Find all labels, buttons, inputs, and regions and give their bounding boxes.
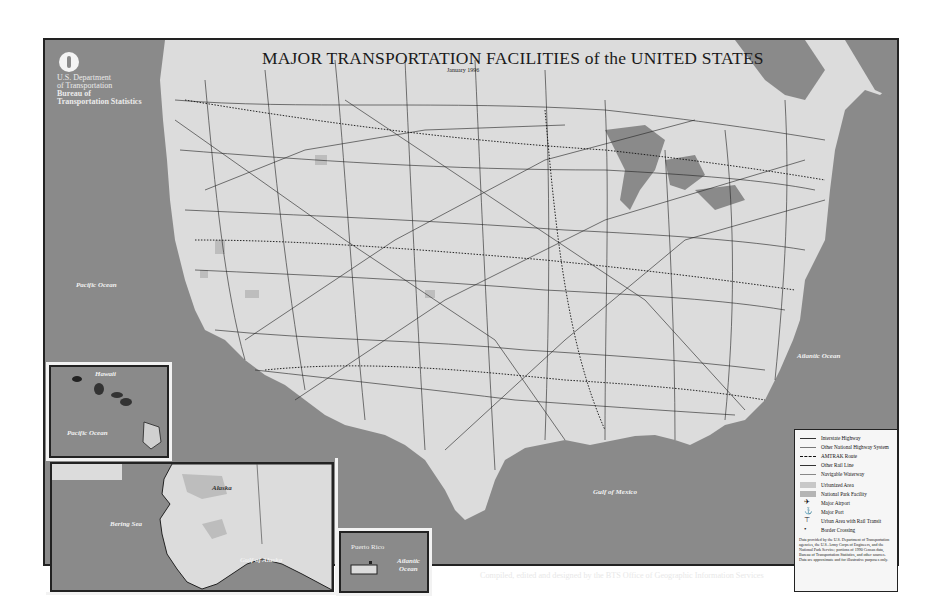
waterway-line-icon <box>799 470 817 478</box>
map-date: January 1996 <box>447 67 479 73</box>
label-hawaii-pacific: Pacific Ocean <box>67 429 108 437</box>
legend-item-interstate: Interstate Highway <box>799 433 893 442</box>
agency-block: U.S. Department of Transportation Bureau… <box>57 74 142 106</box>
label-atlantic-ocean: Atlantic Ocean <box>797 352 840 360</box>
label-gulf-of-alaska: Gulf of Alaska <box>240 556 282 564</box>
legend-label: Urban Area with Rail Transit <box>821 518 881 524</box>
label-alaska: Alaska <box>212 484 232 492</box>
legend-label: Urbanized Area <box>821 482 854 488</box>
legend-label: Major Port <box>821 509 844 515</box>
puerto-rico-inset: Puerto Rico Atlantic Ocean <box>339 531 429 593</box>
credit-line: Compiled, edited and designed by the BTS… <box>480 571 764 580</box>
label-pacific-ocean: Pacific Ocean <box>76 281 117 289</box>
label-puerto-rico: Puerto Rico <box>351 543 384 551</box>
airplane-icon: ✈ <box>799 499 817 507</box>
agency-line4: Transportation Statistics <box>57 98 142 106</box>
legend-label: AMTRAK Route <box>821 453 857 459</box>
amtrak-dashed-line-icon <box>799 452 817 460</box>
legend-item-park: National Park Facility <box>799 489 893 498</box>
legend-item-rail: Other Rail Line <box>799 460 893 469</box>
label-pr-atlantic: Atlantic <box>397 557 420 565</box>
legend-label: Interstate Highway <box>821 435 861 441</box>
legend-item-border: • Border Crossing <box>799 525 893 534</box>
nhs-line-icon <box>799 443 817 451</box>
legend-label: Other National Highway System <box>821 444 889 450</box>
label-bering-sea: Bering Sea <box>110 520 142 528</box>
dot-logo-icon <box>59 52 79 72</box>
rail-transit-icon: ⊤ <box>799 517 817 525</box>
legend-item-amtrak: AMTRAK Route <box>799 451 893 460</box>
legend-source-note: Data provided by the U.S. Department of … <box>799 537 893 562</box>
alaska-inset: Alaska Bering Sea Gulf of Alaska <box>50 462 334 592</box>
legend-item-port: ⚓ Major Port <box>799 507 893 516</box>
map-legend: Interstate Highway Other National Highwa… <box>794 429 898 592</box>
legend-label: Navigable Waterway <box>821 471 864 477</box>
alaska-landmass <box>52 464 332 590</box>
label-hawaii: Hawaii <box>95 370 116 378</box>
label-pr-ocean: Ocean <box>399 565 418 573</box>
legend-label: Major Airport <box>821 500 850 506</box>
legend-label: Other Rail Line <box>821 462 854 468</box>
legend-item-airport: ✈ Major Airport <box>799 498 893 507</box>
urbanized-swatch-icon <box>799 481 817 489</box>
label-gulf-of-mexico: Gulf of Mexico <box>593 488 637 496</box>
legend-item-nhs: Other National Highway System <box>799 442 893 451</box>
border-crossing-icon: • <box>799 526 817 534</box>
legend-item-transit: ⊤ Urban Area with Rail Transit <box>799 516 893 525</box>
park-swatch-icon <box>799 490 817 498</box>
legend-label: National Park Facility <box>821 491 867 497</box>
legend-item-urbanized: Urbanized Area <box>799 480 893 489</box>
hawaii-inset: Hawaii Pacific Ocean <box>49 365 169 458</box>
anchor-icon: ⚓ <box>799 508 817 516</box>
map-title: MAJOR TRANSPORTATION FACILITIES of the U… <box>262 48 764 69</box>
hawaii-islands <box>51 367 167 456</box>
rail-line-icon <box>799 461 817 469</box>
legend-item-waterway: Navigable Waterway <box>799 469 893 478</box>
legend-label: Border Crossing <box>821 527 855 533</box>
interstate-line-icon <box>799 434 817 442</box>
